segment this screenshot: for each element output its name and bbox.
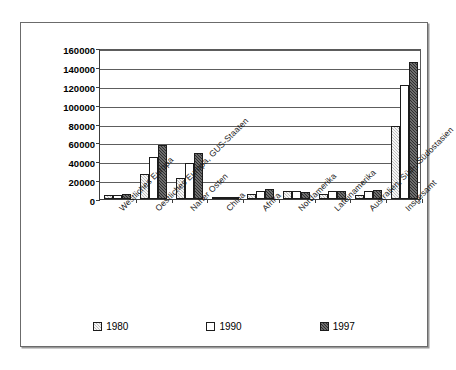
bar-1997 bbox=[301, 192, 310, 199]
bar-1980 bbox=[212, 197, 221, 199]
bar-group bbox=[172, 50, 208, 199]
bar-series-layer bbox=[100, 50, 420, 199]
bar-1990 bbox=[113, 195, 122, 199]
x-axis-tick-mark bbox=[279, 199, 280, 203]
bar-group bbox=[136, 50, 172, 199]
bar-1980 bbox=[104, 195, 113, 199]
y-axis-tick-label: 80000 bbox=[69, 120, 95, 131]
bar-1997 bbox=[373, 190, 382, 199]
y-axis-tick-label: 0 bbox=[90, 196, 95, 207]
bar-1990 bbox=[364, 191, 373, 199]
x-axis-tick-mark bbox=[350, 199, 351, 203]
y-axis-tick-label: 140000 bbox=[63, 63, 95, 74]
bar-1997 bbox=[122, 194, 131, 199]
bar-group bbox=[386, 50, 422, 199]
x-axis-tick-mark bbox=[386, 199, 387, 203]
y-axis-tick-label: 160000 bbox=[63, 45, 95, 56]
bar-1990 bbox=[328, 191, 337, 199]
chart-frame: 0200004000060000800001000001200001400001… bbox=[20, 22, 428, 347]
x-axis-tick-mark bbox=[172, 199, 173, 203]
bar-1990 bbox=[256, 191, 265, 199]
bar-1980 bbox=[247, 194, 256, 199]
bar-1980 bbox=[140, 174, 149, 199]
y-axis-tick-label: 120000 bbox=[63, 82, 95, 93]
bar-1980 bbox=[319, 194, 328, 199]
legend-label-1990: 1990 bbox=[219, 321, 241, 332]
bar-group bbox=[207, 50, 243, 199]
bar-group bbox=[100, 50, 136, 199]
bar-1997 bbox=[337, 191, 346, 199]
bar-1997 bbox=[230, 197, 239, 199]
legend-item-1980: 1980 bbox=[93, 321, 128, 332]
legend-swatch-1980-icon bbox=[93, 322, 102, 331]
bar-1997 bbox=[265, 189, 274, 199]
y-axis-tick-label: 60000 bbox=[69, 139, 95, 150]
legend-label-1997: 1997 bbox=[333, 321, 355, 332]
x-axis-tick-mark bbox=[243, 199, 244, 203]
bar-1980 bbox=[176, 178, 185, 199]
bar-1997 bbox=[194, 153, 203, 199]
chart-legend: 1980 1990 1997 bbox=[21, 321, 427, 332]
legend-item-1990: 1990 bbox=[206, 321, 241, 332]
y-axis-tick-label: 20000 bbox=[69, 177, 95, 188]
x-axis-tick-mark bbox=[136, 199, 137, 203]
bar-1997 bbox=[158, 145, 167, 199]
legend-swatch-1997-icon bbox=[320, 322, 329, 331]
y-axis-tick-label: 100000 bbox=[63, 101, 95, 112]
bar-1980 bbox=[283, 191, 292, 199]
plot-area: 0200004000060000800001000001200001400001… bbox=[99, 49, 421, 200]
bar-1990 bbox=[185, 163, 194, 199]
x-axis-tick-mark bbox=[207, 199, 208, 203]
bar-group bbox=[350, 50, 386, 199]
bar-1980 bbox=[355, 195, 364, 199]
bar-1980 bbox=[391, 126, 400, 199]
bar-1990 bbox=[149, 157, 158, 199]
bar-1990 bbox=[400, 85, 409, 199]
bar-1990 bbox=[221, 197, 230, 199]
y-axis-tick-mark bbox=[96, 200, 100, 201]
legend-swatch-1990-icon bbox=[206, 322, 215, 331]
legend-item-1997: 1997 bbox=[320, 321, 355, 332]
bar-group bbox=[243, 50, 279, 199]
x-axis-tick-mark bbox=[422, 199, 423, 203]
bar-group bbox=[279, 50, 315, 199]
y-axis-tick-label: 40000 bbox=[69, 158, 95, 169]
bar-group bbox=[315, 50, 351, 199]
legend-label-1980: 1980 bbox=[106, 321, 128, 332]
bar-1997 bbox=[409, 62, 418, 199]
bar-1990 bbox=[292, 191, 301, 199]
x-axis-tick-mark bbox=[315, 199, 316, 203]
